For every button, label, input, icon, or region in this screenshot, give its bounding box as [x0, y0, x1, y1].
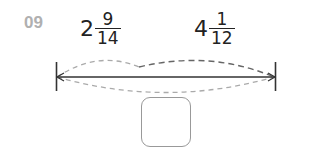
answer-box[interactable] — [141, 97, 191, 147]
arc-second-segment — [139, 60, 274, 77]
arc-first-segment — [57, 60, 139, 77]
arc-total — [57, 77, 274, 93]
